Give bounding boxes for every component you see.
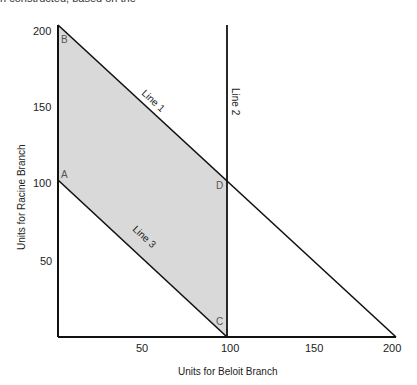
x-tick-150: 150 bbox=[305, 342, 323, 354]
point-b-label: B bbox=[61, 34, 68, 45]
point-a-label: A bbox=[61, 169, 68, 180]
line-2-label: Line 2 bbox=[230, 88, 241, 116]
y-tick-150: 150 bbox=[33, 101, 51, 113]
y-tick-200: 200 bbox=[33, 25, 51, 37]
x-tick-100: 100 bbox=[221, 342, 239, 354]
y-axis-label: Units for Racine Branch bbox=[16, 144, 27, 250]
feasible-region bbox=[58, 25, 227, 337]
chart: 200 150 100 50 50 100 150 200 Units for … bbox=[0, 0, 417, 385]
y-tick-50: 50 bbox=[40, 255, 52, 267]
x-tick-200: 200 bbox=[383, 342, 401, 354]
y-tick-100: 100 bbox=[33, 177, 51, 189]
x-tick-50: 50 bbox=[136, 342, 148, 354]
point-d-label: D bbox=[216, 180, 223, 191]
point-c-label: C bbox=[216, 316, 223, 327]
x-axis-label: Units for Beloit Branch bbox=[178, 366, 278, 377]
